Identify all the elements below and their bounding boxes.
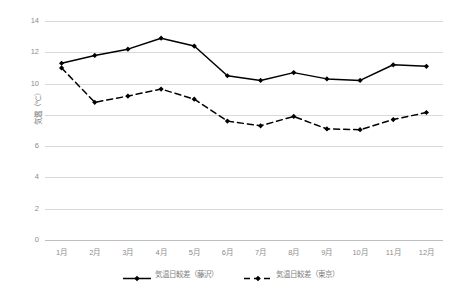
data-point-marker: [125, 93, 130, 98]
series-layer: [45, 21, 443, 240]
data-point-marker: [424, 110, 429, 115]
data-point-marker: [291, 114, 296, 119]
legend-item-2[interactable]: 気温日較差（東京）: [244, 268, 339, 279]
y-tick-label: 8: [19, 111, 39, 119]
data-point-marker: [158, 86, 163, 91]
chart-legend: 気温日較差（藤沢）気温日較差（東京）: [0, 268, 461, 279]
data-point-marker: [291, 70, 296, 75]
data-point-marker: [324, 76, 329, 81]
legend-label: 気温日較差（東京）: [276, 268, 339, 279]
data-point-marker: [391, 117, 396, 122]
x-tick-label: 12月: [406, 246, 446, 257]
x-axis-line: [45, 240, 443, 241]
y-tick-label: 2: [19, 205, 39, 213]
data-point-marker: [258, 78, 263, 83]
data-point-marker: [357, 78, 362, 83]
y-tick-label: 12: [19, 48, 39, 56]
y-tick-label: 10: [19, 80, 39, 88]
legend-swatch-icon: [123, 269, 151, 278]
data-point-marker: [424, 64, 429, 69]
series-line: [62, 68, 427, 130]
data-point-marker: [92, 53, 97, 58]
line-chart: 気温（℃） 02468101214 1月2月3月4月5月6月7月8月9月10月1…: [0, 0, 461, 293]
y-tick-label: 14: [19, 17, 39, 25]
data-point-marker: [324, 126, 329, 131]
legend-swatch-icon: [244, 269, 272, 278]
data-point-marker: [391, 62, 396, 67]
series-1: [59, 36, 429, 83]
data-point-marker: [158, 36, 163, 41]
data-point-marker: [59, 61, 64, 66]
data-point-marker: [258, 123, 263, 128]
legend-label: 気温日較差（藤沢）: [155, 268, 218, 279]
y-tick-label: 6: [19, 142, 39, 150]
y-tick-label: 0: [19, 236, 39, 244]
series-2: [59, 65, 429, 132]
data-point-marker: [357, 127, 362, 132]
data-point-marker: [125, 47, 130, 52]
legend-item-1[interactable]: 気温日較差（藤沢）: [123, 268, 218, 279]
data-point-marker: [225, 119, 230, 124]
y-tick-label: 4: [19, 173, 39, 181]
plot-area: [45, 21, 443, 240]
series-line: [62, 38, 427, 80]
